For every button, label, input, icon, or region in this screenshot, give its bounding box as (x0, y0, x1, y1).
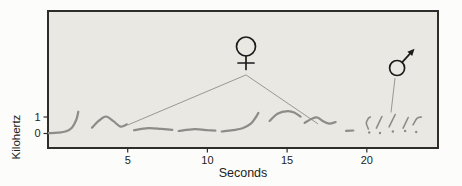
y-axis-label: Kilohertz (10, 114, 22, 159)
x-tick-label: 20 (361, 154, 373, 166)
trace-dot (368, 131, 370, 133)
spectrogram-chart: 510152010SecondsKilohertz (0, 0, 462, 186)
trace-dot (404, 130, 406, 132)
x-axis-label: Seconds (219, 166, 268, 180)
x-tick-label: 15 (281, 154, 293, 166)
trace-dot (379, 132, 381, 134)
figure-page: 510152010SecondsKilohertz (0, 0, 462, 186)
y-tick-label: 0 (34, 127, 40, 139)
x-tick-label: 5 (125, 154, 131, 166)
trace-dot (415, 131, 417, 133)
trace-dot (392, 130, 394, 132)
x-tick-label: 10 (201, 154, 213, 166)
y-tick-label: 1 (34, 111, 40, 123)
